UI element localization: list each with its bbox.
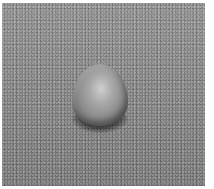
pellet-object	[72, 64, 128, 126]
photo	[2, 3, 205, 186]
